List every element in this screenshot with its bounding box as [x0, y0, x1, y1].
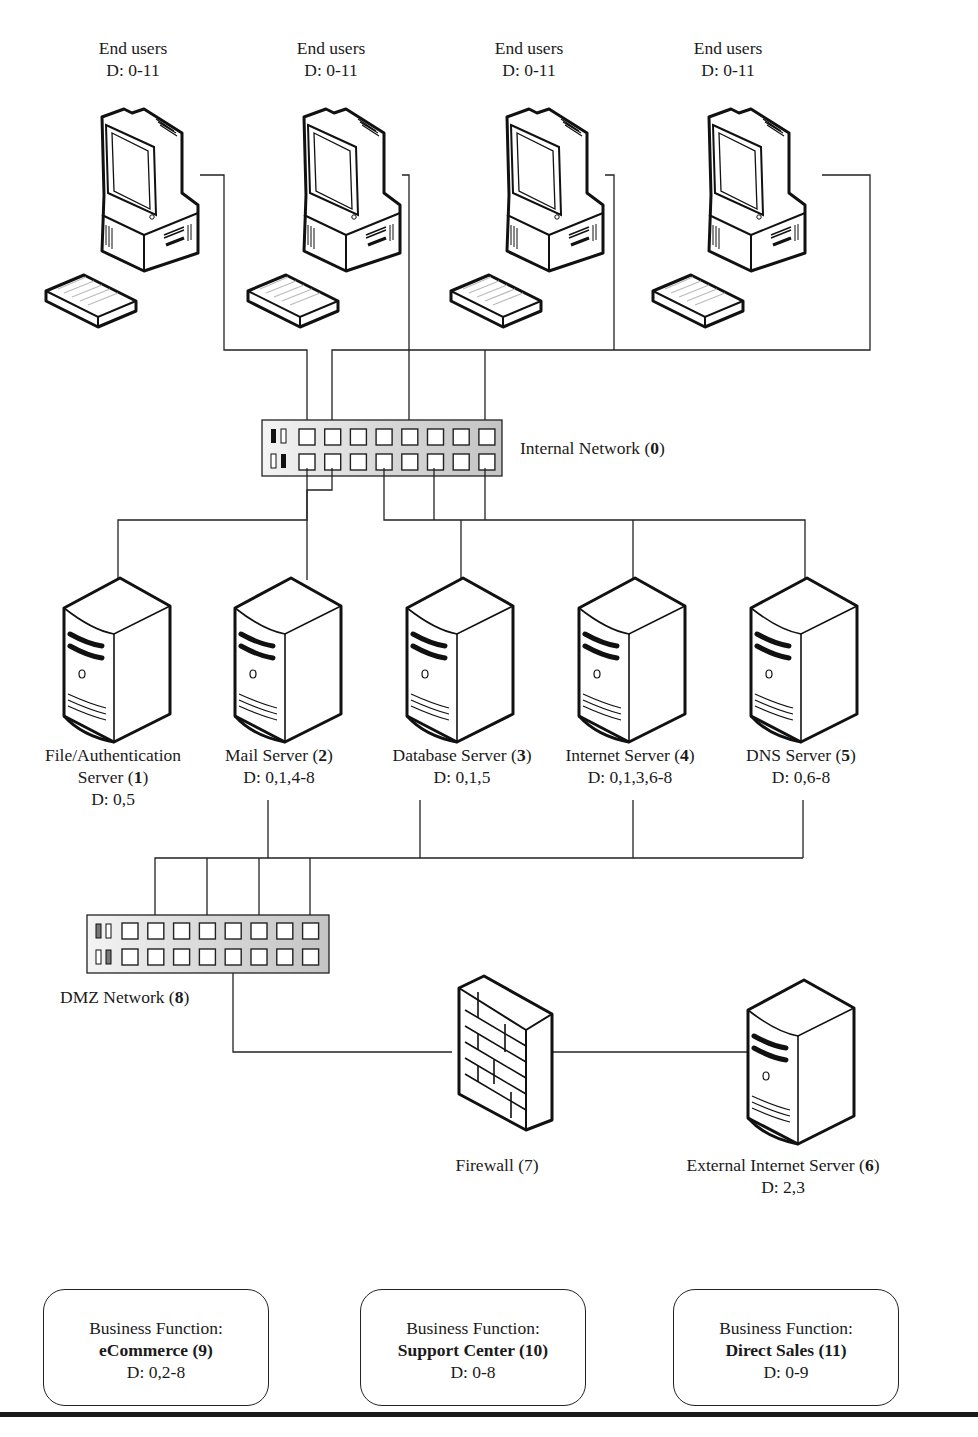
end-user-name: End users [495, 37, 564, 59]
switch-port [303, 923, 319, 939]
switch-port [402, 454, 418, 470]
switch-port [325, 429, 341, 445]
workstation-3-icon [451, 109, 603, 327]
dmz-network-switch [87, 915, 329, 973]
bf-name: eCommerce (9) [99, 1340, 213, 1360]
internet-server-label: Internet Server (4) D: 0,1,3,6-8 [565, 744, 694, 788]
label-line: Mail Server (2) [225, 744, 333, 766]
label-text: Internal Network ( [520, 438, 650, 458]
switch-port [453, 454, 469, 470]
switch-port [251, 949, 267, 965]
server-domains: D: 0,6-8 [746, 766, 856, 788]
label-line: Server (1) [45, 766, 181, 788]
switch-port [122, 923, 138, 939]
label-text: ) [689, 745, 695, 765]
bf-domains: D: 0-8 [361, 1361, 585, 1383]
business-function-direct-sales: Business Function: Direct Sales (11) D: … [673, 1289, 899, 1406]
switch-port [174, 923, 190, 939]
database-server-icon [407, 578, 513, 742]
label-text: DMZ Network ( [60, 987, 175, 1007]
server-domains: D: 0,5 [45, 788, 181, 810]
label-line: Database Server (3) [393, 744, 532, 766]
end-user-domains: D: 0-11 [297, 59, 366, 81]
switch-port [402, 429, 418, 445]
switch-port [428, 454, 444, 470]
domain-id: 2 [318, 745, 327, 765]
switch-port [299, 429, 315, 445]
internal-network-label: Internal Network (0) [520, 437, 665, 459]
switch-port [453, 429, 469, 445]
label-line: External Internet Server (6) [687, 1154, 880, 1176]
end-user-domains: D: 0-11 [495, 59, 564, 81]
label-text: Firewall (7) [455, 1154, 538, 1176]
end-user-name: End users [297, 37, 366, 59]
bf-name: Direct Sales (11) [725, 1340, 846, 1360]
server-domains: D: 2,3 [687, 1176, 880, 1198]
external-server-label: External Internet Server (6) D: 2,3 [687, 1154, 880, 1198]
switch-port [277, 949, 293, 965]
label-text: Server ( [78, 767, 134, 787]
bf-title: Business Function: [674, 1317, 898, 1339]
label-line: Internet Server (4) [565, 744, 694, 766]
bf-title: Business Function: [361, 1317, 585, 1339]
bf-title: Business Function: [44, 1317, 268, 1339]
internal-network-switch [262, 420, 502, 476]
end-user-label-4: End users D: 0-11 [694, 37, 763, 81]
end-user-label-1: End users D: 0-11 [99, 37, 168, 81]
diagram-canvas [0, 0, 978, 1437]
workstation-1-icon [46, 109, 198, 327]
switch-port [428, 429, 444, 445]
server-domains: D: 0,1,5 [393, 766, 532, 788]
label-text: ) [183, 987, 189, 1007]
domain-id: 5 [841, 745, 850, 765]
mail-server-label: Mail Server (2) D: 0,1,4-8 [225, 744, 333, 788]
domain-id: 3 [517, 745, 526, 765]
label-text: Mail Server ( [225, 745, 318, 765]
server-domains: D: 0,1,4-8 [225, 766, 333, 788]
switch-port [174, 949, 190, 965]
switch-port [376, 429, 392, 445]
label-text: ) [526, 745, 532, 765]
end-user-name: End users [99, 37, 168, 59]
database-server-label: Database Server (3) D: 0,1,5 [393, 744, 532, 788]
switch-port [199, 923, 215, 939]
file-auth-server-icon [64, 578, 170, 742]
bottom-rule [0, 1412, 978, 1417]
connections-middle [118, 468, 805, 580]
label-text: External Internet Server ( [687, 1155, 865, 1175]
switch-port [325, 454, 341, 470]
dns-server-label: DNS Server (5) D: 0,6-8 [746, 744, 856, 788]
file-auth-server-label: File/Authentication Server (1) D: 0,5 [45, 744, 181, 810]
server-domains: D: 0,1,3,6-8 [565, 766, 694, 788]
bf-domains: D: 0,2-8 [44, 1361, 268, 1383]
bf-domains: D: 0-9 [674, 1361, 898, 1383]
label-text: ) [659, 438, 665, 458]
dns-server-icon [751, 578, 857, 742]
label-line: DNS Server (5) [746, 744, 856, 766]
end-user-name: End users [694, 37, 763, 59]
business-function-ecommerce: Business Function: eCommerce (9) D: 0,2-… [43, 1289, 269, 1406]
end-user-domains: D: 0-11 [694, 59, 763, 81]
external-internet-server-icon [748, 980, 854, 1144]
switch-port [225, 949, 241, 965]
switch-port [479, 429, 495, 445]
workstation-4-icon [653, 109, 805, 327]
business-function-support-center: Business Function: Support Center (10) D… [360, 1289, 586, 1406]
firewall-icon [459, 976, 552, 1130]
switch-port [350, 429, 366, 445]
switch-port [148, 949, 164, 965]
switch-port [303, 949, 319, 965]
dmz-network-label: DMZ Network (8) [60, 986, 189, 1008]
switch-port [225, 923, 241, 939]
domain-id: 6 [865, 1155, 874, 1175]
bf-name: Support Center (10) [398, 1340, 548, 1360]
label-text: DNS Server ( [746, 745, 841, 765]
end-user-label-2: End users D: 0-11 [297, 37, 366, 81]
internet-server-icon [579, 578, 685, 742]
domain-id: 0 [650, 438, 659, 458]
label-text: Internet Server ( [565, 745, 680, 765]
switch-port [148, 923, 164, 939]
switch-port [350, 454, 366, 470]
end-user-label-3: End users D: 0-11 [495, 37, 564, 81]
label-text: File/Authentication [45, 744, 181, 766]
